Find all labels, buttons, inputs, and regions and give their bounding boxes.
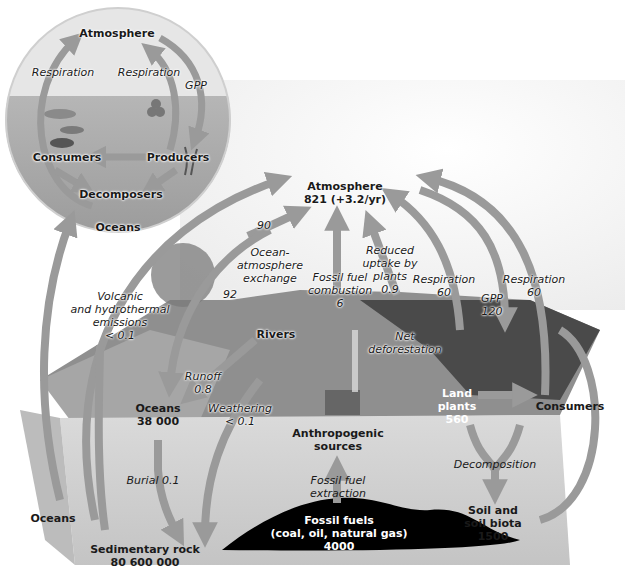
volcanic-value: < 0.1	[71, 329, 170, 342]
soil-line2: soil biota	[464, 517, 521, 530]
flux-reduced-uptake: Reduced uptake by plants 0.9	[362, 244, 417, 296]
inset-decomposers-label: Decomposers	[79, 188, 163, 201]
sedimentary-rock-reservoir: Sedimentary rock 80 600 000	[90, 543, 200, 569]
flux-runoff: Runoff 0.8	[185, 370, 221, 396]
inset-producers-label: Producers	[147, 151, 210, 164]
sedimentary-rock-name: Sedimentary rock	[90, 543, 200, 556]
respiration-plants-value: 60	[413, 286, 476, 299]
flux-atm-to-ocean-value: 92	[223, 288, 237, 301]
fossil-fuels-reservoir: Fossil fuels (coal, oil, natural gas) 40…	[270, 514, 407, 553]
anthropogenic-line2: sources	[292, 440, 383, 453]
flux-gpp: GPP 120	[481, 292, 503, 318]
oceans-reservoir: Oceans 38 000	[135, 402, 180, 428]
atmosphere-value: 821 (+3.2/yr)	[304, 193, 386, 206]
fossil-extraction-line2: extraction	[310, 487, 366, 500]
respiration-consumers-label: Respiration	[503, 273, 566, 286]
sedimentary-rock-value: 80 600 000	[90, 556, 200, 569]
smokestack-smoke	[352, 330, 358, 392]
atmosphere-reservoir: Atmosphere 821 (+3.2/yr)	[304, 180, 386, 206]
oceans-value: 38 000	[135, 415, 180, 428]
reduced-uptake-line1: Reduced	[362, 244, 417, 257]
fossil-fuels-detail: (coal, oil, natural gas)	[270, 527, 407, 540]
gpp-label: GPP	[481, 292, 503, 305]
anthropogenic-line1: Anthropogenic	[292, 427, 383, 440]
factory	[325, 390, 360, 415]
soil-value: 1500	[464, 530, 521, 543]
reduced-uptake-line3: plants	[362, 270, 417, 283]
fossil-combustion-value: 6	[308, 297, 372, 310]
carbon-cycle-diagram: Atmosphere Respiration Respiration GPP C…	[0, 0, 625, 583]
inset-respiration-left-label: Respiration	[32, 66, 95, 79]
inset-respiration-right-label: Respiration	[118, 66, 181, 79]
reduced-uptake-value: 0.9	[362, 283, 417, 296]
land-plants-line1: Land	[438, 387, 477, 400]
anthropogenic-sources: Anthropogenic sources	[292, 427, 383, 453]
fossil-fuels-value: 4000	[270, 540, 407, 553]
weathering-label: Weathering	[208, 402, 272, 415]
soil-line1: Soil and	[464, 504, 521, 517]
flux-respiration-plants: Respiration 60	[413, 273, 476, 299]
oceans-side-label: Oceans	[30, 512, 75, 525]
flux-burial: Burial 0.1	[127, 474, 180, 487]
soil-reservoir: Soil and soil biota 1500	[464, 504, 521, 543]
inset-oceans-label: Oceans	[95, 221, 140, 234]
land-plants-reservoir: Land plants 560	[438, 387, 477, 426]
inset-gpp-label: GPP	[185, 79, 207, 92]
reduced-uptake-line2: uptake by	[362, 257, 417, 270]
land-plants-line2: plants	[438, 400, 477, 413]
runoff-value: 0.8	[185, 383, 221, 396]
net-deforestation-line2: deforestation	[368, 343, 442, 356]
flux-ocean-atm-exchange: Ocean- atmosphere exchange	[237, 246, 303, 285]
ocean-atm-line2: atmosphere	[237, 259, 303, 272]
weathering-value: < 0.1	[208, 415, 272, 428]
flux-weathering: Weathering < 0.1	[208, 402, 272, 428]
runoff-label: Runoff	[185, 370, 221, 383]
flux-respiration-consumers: Respiration 60	[503, 273, 566, 299]
consumers-label: Consumers	[536, 400, 605, 413]
fossil-extraction-line1: Fossil fuel	[310, 474, 366, 487]
rivers-label: Rivers	[257, 328, 296, 341]
atmosphere-name: Atmosphere	[304, 180, 386, 193]
ocean-atm-line3: exchange	[237, 272, 303, 285]
ocean-atm-line1: Ocean-	[237, 246, 303, 259]
oceans-name: Oceans	[135, 402, 180, 415]
flux-net-deforestation: Net deforestation	[368, 330, 442, 356]
land-plants-value: 560	[438, 413, 477, 426]
gpp-value: 120	[481, 305, 503, 318]
flux-ocean-to-atm-value: 90	[257, 219, 271, 232]
net-deforestation-line1: Net	[368, 330, 442, 343]
respiration-plants-label: Respiration	[413, 273, 476, 286]
inset-consumers-label: Consumers	[33, 151, 102, 164]
volcanic-line2: and hydrothermal	[71, 303, 170, 316]
flux-volcanic: Volcanic and hydrothermal emissions < 0.…	[71, 290, 170, 342]
flux-fossil-extraction: Fossil fuel extraction	[310, 474, 366, 500]
inset-atmosphere-label: Atmosphere	[79, 27, 154, 40]
respiration-consumers-value: 60	[503, 286, 566, 299]
volcanic-line3: emissions	[71, 316, 170, 329]
flux-decomposition: Decomposition	[454, 458, 536, 471]
fossil-fuels-name: Fossil fuels	[270, 514, 407, 527]
volcanic-line1: Volcanic	[71, 290, 170, 303]
